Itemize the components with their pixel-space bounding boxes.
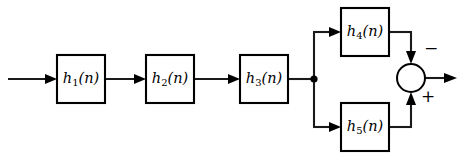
block-h3-label: h3(n) (240, 71, 288, 88)
block-h2-label-fn: h (152, 70, 161, 86)
block-h1-label: h1(n) (57, 71, 105, 88)
arrowhead-h2-input (134, 74, 146, 84)
block-h5-label: h5(n) (341, 119, 389, 136)
arrowhead-summer-plus-input (406, 92, 416, 105)
block-h5-label-arg: (n) (363, 118, 384, 134)
block-h4-label-fn: h (347, 23, 356, 39)
block-h2-label-arg: (n) (168, 70, 189, 86)
block-h4-label-arg: (n) (363, 23, 384, 39)
block-h3-label-fn: h (246, 70, 255, 86)
block-h1-label-fn: h (63, 70, 72, 86)
arrowhead-output (444, 73, 457, 83)
block-h5-label-fn: h (347, 118, 356, 134)
block-h3-label-arg: (n) (262, 70, 283, 86)
arrowhead-summer-minus-input (406, 51, 416, 64)
arrowhead-h3-input (228, 74, 240, 84)
branch-node-dot (310, 75, 317, 82)
arrowhead-h4-input (329, 27, 341, 37)
block-h4-label: h4(n) (341, 24, 389, 41)
block-h1-label-arg: (n) (79, 70, 100, 86)
summer-minus-sign: − (424, 40, 438, 57)
arrowhead-input (45, 74, 57, 84)
block-diagram: h1(n) h2(n) h3(n) h4(n) h5(n) − + (0, 0, 464, 157)
arrowhead-h5-input (329, 122, 341, 132)
block-h2-label: h2(n) (146, 71, 194, 88)
summer-plus-sign: + (421, 88, 435, 105)
